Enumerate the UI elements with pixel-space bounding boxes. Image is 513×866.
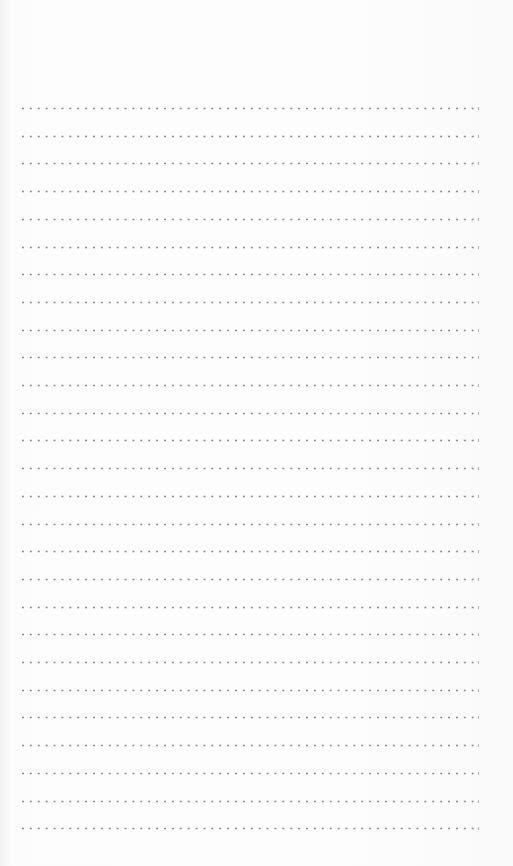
dotted-writing-line <box>19 273 477 276</box>
dotted-writing-line <box>19 550 477 553</box>
dotted-writing-line <box>19 135 477 138</box>
dotted-writing-line <box>19 661 477 664</box>
dotted-writing-line <box>19 162 477 165</box>
dotted-writing-line <box>19 218 477 221</box>
dotted-writing-line <box>19 384 477 387</box>
dotted-writing-line <box>19 412 477 415</box>
dotted-writing-line <box>19 439 477 442</box>
dotted-writing-line <box>19 246 477 249</box>
dotted-writing-line <box>19 772 477 775</box>
dotted-writing-line <box>19 190 477 193</box>
dotted-writing-line <box>19 356 477 359</box>
dotted-writing-line <box>19 578 477 581</box>
dotted-writing-line <box>19 744 477 747</box>
dotted-writing-line <box>19 107 477 110</box>
dotted-writing-line <box>19 716 477 719</box>
dotted-writing-line <box>19 689 477 692</box>
dotted-writing-line <box>19 329 477 332</box>
dotted-writing-line <box>19 301 477 304</box>
writing-sheet <box>0 0 513 866</box>
dotted-writing-line <box>19 606 477 609</box>
dotted-writing-line <box>19 495 477 498</box>
dotted-writing-line <box>19 523 477 526</box>
dotted-writing-line <box>19 467 477 470</box>
dotted-writing-line <box>19 827 477 830</box>
dotted-writing-line <box>19 633 477 636</box>
dotted-writing-line <box>19 800 477 803</box>
